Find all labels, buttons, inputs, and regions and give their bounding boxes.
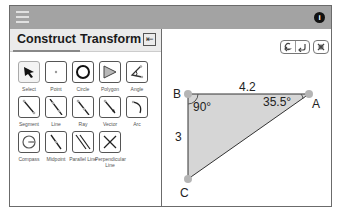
tab-transform[interactable]: Transform: [80, 32, 141, 46]
line-icon: [48, 99, 64, 115]
tool-label: Line: [41, 121, 71, 127]
collapse-panel-button[interactable]: ⇤: [143, 33, 156, 46]
tool-label: Compass: [14, 156, 44, 162]
app-frame: i Construct Transform ⇤ Select Point Cir…: [9, 5, 332, 207]
arrow-cursor-icon: [22, 65, 36, 79]
angle-a-measure: 35.5°: [263, 95, 291, 109]
info-icon[interactable]: i: [314, 12, 325, 23]
point-a-label: A: [312, 97, 320, 111]
parallel-line-icon: [75, 134, 91, 150]
point-icon: [49, 65, 63, 79]
segment-icon: [21, 99, 37, 115]
circle-icon: [75, 64, 91, 80]
tool-label: Select: [14, 86, 44, 92]
polygon-icon: [102, 64, 118, 80]
tool-label: Segment: [14, 121, 44, 127]
tool-label: Circle: [68, 86, 98, 92]
tool-label: Perpendicular Line: [95, 156, 125, 168]
tool-label: Vector: [95, 121, 125, 127]
tool-arc[interactable]: Arc: [126, 96, 152, 127]
arc-icon: [129, 99, 145, 115]
angle-icon: [129, 64, 145, 80]
tools-panel: Construct Transform ⇤ Select Point Circl…: [10, 29, 162, 206]
tool-label: Arc: [122, 121, 152, 127]
point-b-label: B: [173, 87, 181, 101]
geometry-canvas[interactable]: B A C 4.2 3 90° 35.5°: [162, 29, 332, 206]
tool-angle[interactable]: Angle: [126, 61, 152, 92]
triangle-figure: [162, 29, 332, 206]
tool-label: Midpoint: [41, 156, 71, 162]
tab-construct[interactable]: Construct: [17, 32, 76, 46]
side-ab-length: 4.2: [239, 80, 256, 94]
tool-label: Point: [41, 86, 71, 92]
panel-tabs: Construct Transform ⇤: [10, 29, 161, 52]
tool-label: Angle: [122, 86, 152, 92]
tool-label: Parallel Line: [68, 156, 98, 162]
point-c-label: C: [180, 186, 189, 200]
tool-label: Polygon: [95, 86, 125, 92]
tool-perpendicular-line[interactable]: Perpendicular Line: [99, 131, 125, 168]
angle-b-measure: 90°: [193, 100, 211, 114]
compass-icon: [21, 134, 37, 150]
midpoint-icon: [48, 134, 64, 150]
point-b[interactable]: [184, 90, 192, 98]
point-c[interactable]: [184, 175, 192, 183]
side-bc-length: 3: [175, 130, 182, 144]
perpendicular-line-icon: [102, 134, 118, 150]
ray-icon: [75, 99, 91, 115]
vector-icon: [102, 99, 118, 115]
hamburger-icon[interactable]: [16, 11, 29, 23]
tool-label: Ray: [68, 121, 98, 127]
top-bar: i: [10, 6, 331, 29]
